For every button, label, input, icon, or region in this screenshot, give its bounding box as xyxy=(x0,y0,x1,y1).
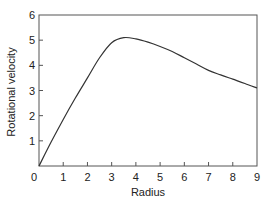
y-axis: 123456 xyxy=(29,9,43,147)
y-tick-label: 4 xyxy=(29,59,35,71)
x-tick-label: 2 xyxy=(84,171,90,183)
x-tick-label: 9 xyxy=(254,171,260,183)
y-axis-title: Rotational velocity xyxy=(5,47,17,137)
y-tick-label: 1 xyxy=(29,135,35,147)
x-tick-label: 0 xyxy=(31,171,37,183)
y-tick-label: 5 xyxy=(29,34,35,46)
y-tick-label: 3 xyxy=(29,85,35,97)
x-tick-label: 1 xyxy=(60,171,66,183)
x-tick-label: 7 xyxy=(205,171,211,183)
x-tick-label: 6 xyxy=(181,171,187,183)
rotation-curve-chart: 0123456789 123456 Radius Rotational velo… xyxy=(0,0,274,204)
x-tick-label: 5 xyxy=(157,171,163,183)
x-axis-title: Radius xyxy=(131,186,166,198)
y-tick-label: 6 xyxy=(29,9,35,21)
y-tick-label: 2 xyxy=(29,110,35,122)
data-line xyxy=(39,37,257,166)
plot-frame xyxy=(39,15,257,166)
x-axis: 0123456789 xyxy=(31,162,260,183)
x-tick-label: 3 xyxy=(109,171,115,183)
x-tick-label: 8 xyxy=(230,171,236,183)
plot-border xyxy=(39,15,257,166)
x-tick-label: 4 xyxy=(133,171,139,183)
